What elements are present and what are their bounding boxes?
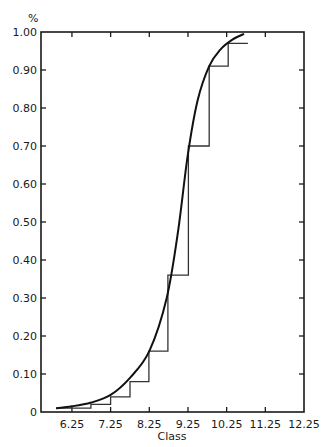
x-tick-label: 12.25 <box>288 418 320 431</box>
y-tick-label: 0.50 <box>13 216 38 229</box>
step-series <box>56 43 248 408</box>
y-tick-label: 0.40 <box>13 254 38 267</box>
x-tick-label: 11.25 <box>250 418 282 431</box>
fitted-curve-series <box>56 34 244 408</box>
cumulative-distribution-chart: 00.100.200.300.400.500.600.700.800.901.0… <box>0 0 324 447</box>
y-tick-label: 0.70 <box>13 140 38 153</box>
x-tick-label: 6.25 <box>60 418 85 431</box>
y-tick-label: 1.00 <box>13 26 38 39</box>
y-tick-label: 0.60 <box>13 178 38 191</box>
y-tick-label: 0.30 <box>13 292 38 305</box>
y-tick-label: 0 <box>30 406 37 419</box>
y-tick-label: 0.20 <box>13 330 38 343</box>
y-axis-unit-label: % <box>28 12 38 25</box>
x-tick-label: 10.25 <box>211 418 243 431</box>
x-axis: 6.257.258.259.2510.2511.2512.25 <box>60 32 320 431</box>
plot-frame <box>41 32 304 412</box>
y-axis: 00.100.200.300.400.500.600.700.800.901.0… <box>13 26 305 419</box>
y-tick-label: 0.90 <box>13 64 38 77</box>
x-axis-title: Class <box>158 430 187 443</box>
x-tick-label: 7.25 <box>98 418 123 431</box>
y-tick-label: 0.80 <box>13 102 38 115</box>
y-tick-label: 0.10 <box>13 368 38 381</box>
